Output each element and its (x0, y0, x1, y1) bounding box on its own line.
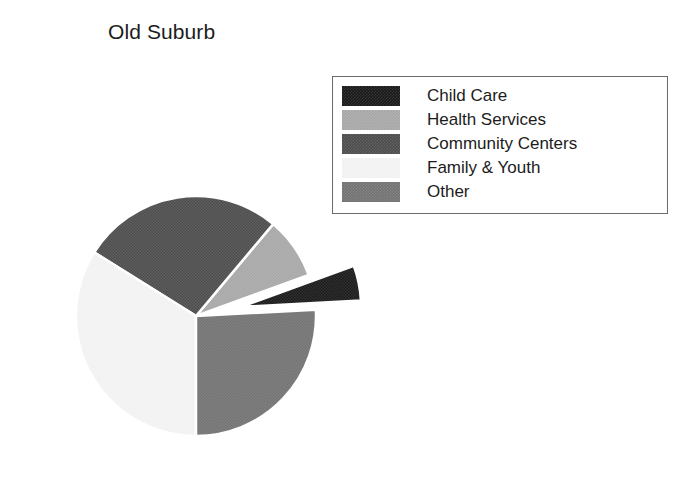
pie-chart-svg (0, 0, 700, 487)
pie-chart (0, 0, 700, 487)
legend-label-family-youth: Family & Youth (427, 158, 540, 178)
legend-list: Child Care Health Services Community Cen… (342, 84, 660, 204)
chart-page: Old Suburb Child Care Health Services (0, 0, 700, 487)
legend-item-child-care[interactable]: Child Care (342, 84, 660, 108)
legend-swatch-other (342, 182, 400, 202)
legend-item-family-youth[interactable]: Family & Youth (342, 156, 660, 180)
legend-label-community-centers: Community Centers (427, 134, 577, 154)
legend-label-health-services: Health Services (427, 110, 546, 130)
legend-swatch-health-services (342, 110, 400, 130)
legend-swatch-child-care (342, 86, 400, 106)
pie-slice-group (76, 196, 361, 436)
legend-swatch-family-youth (342, 158, 400, 178)
legend: Child Care Health Services Community Cen… (332, 76, 668, 214)
legend-swatch-community-centers (342, 134, 400, 154)
legend-item-community-centers[interactable]: Community Centers (342, 132, 660, 156)
pie-slice-texture (196, 310, 316, 436)
legend-item-health-services[interactable]: Health Services (342, 108, 660, 132)
legend-label-child-care: Child Care (427, 86, 507, 106)
legend-item-other[interactable]: Other (342, 180, 660, 204)
legend-label-other: Other (427, 182, 470, 202)
